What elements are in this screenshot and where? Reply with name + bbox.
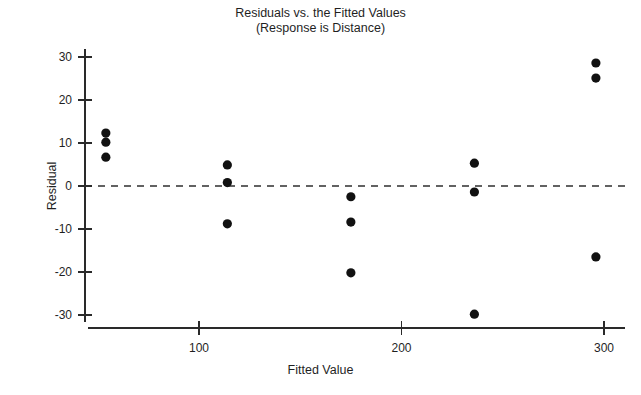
- data-point: [346, 192, 355, 201]
- x-axis-title: Fitted Value: [0, 363, 641, 377]
- residual-plot-figure: Residuals vs. the Fitted Values (Respons…: [0, 0, 641, 395]
- y-axis-title: Residual: [45, 126, 59, 246]
- data-point: [223, 219, 232, 228]
- y-tick-label: -30: [24, 308, 72, 322]
- data-point: [223, 160, 232, 169]
- data-point: [470, 187, 479, 196]
- x-tick-label: 200: [391, 341, 411, 355]
- y-tick-label: -20: [24, 265, 72, 279]
- x-tick-label: 300: [594, 341, 614, 355]
- y-tick-label: 20: [24, 93, 72, 107]
- plot-area: [0, 0, 641, 395]
- data-point: [101, 129, 110, 138]
- data-point: [223, 178, 232, 187]
- data-point: [591, 58, 600, 67]
- data-point: [591, 252, 600, 261]
- data-point: [591, 73, 600, 82]
- data-point: [346, 268, 355, 277]
- data-point: [101, 138, 110, 147]
- data-point-series: [101, 58, 600, 318]
- y-tick-label: 30: [24, 50, 72, 64]
- data-point: [101, 153, 110, 162]
- x-tick-label: 100: [189, 341, 209, 355]
- data-point: [346, 218, 355, 227]
- data-point: [470, 310, 479, 319]
- data-point: [470, 159, 479, 168]
